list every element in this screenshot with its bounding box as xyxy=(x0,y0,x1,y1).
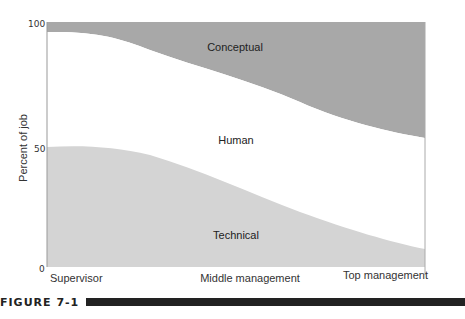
x-label-middle-management: Middle management xyxy=(200,272,300,284)
figure-caption-label: FIGURE 7-1 xyxy=(0,296,79,309)
y-tick-100: 100 xyxy=(28,19,45,29)
y-tick-50: 50 xyxy=(34,144,46,154)
stacked-area-chart: 100 50 0 Percent of job Conceptual Human… xyxy=(0,0,465,319)
figure-rule-bar xyxy=(86,298,465,306)
y-axis-label: Percent of job xyxy=(17,114,29,182)
human-label: Human xyxy=(218,134,253,146)
x-label-top-management: Top management xyxy=(343,269,428,281)
technical-label: Technical xyxy=(213,229,259,241)
x-label-supervisor: Supervisor xyxy=(50,272,103,284)
y-tick-0: 0 xyxy=(39,264,45,274)
conceptual-label: Conceptual xyxy=(207,41,263,53)
